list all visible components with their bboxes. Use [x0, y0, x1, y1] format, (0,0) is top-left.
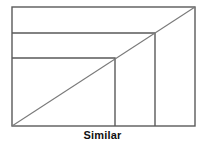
figure-caption: Similar: [83, 129, 121, 142]
similar-rectangles-diagram: [0, 0, 205, 144]
shared-diagonal-line: [12, 7, 195, 126]
similar-rectangles-figure: Similar: [0, 0, 205, 144]
caption-area: Similar: [0, 126, 205, 144]
